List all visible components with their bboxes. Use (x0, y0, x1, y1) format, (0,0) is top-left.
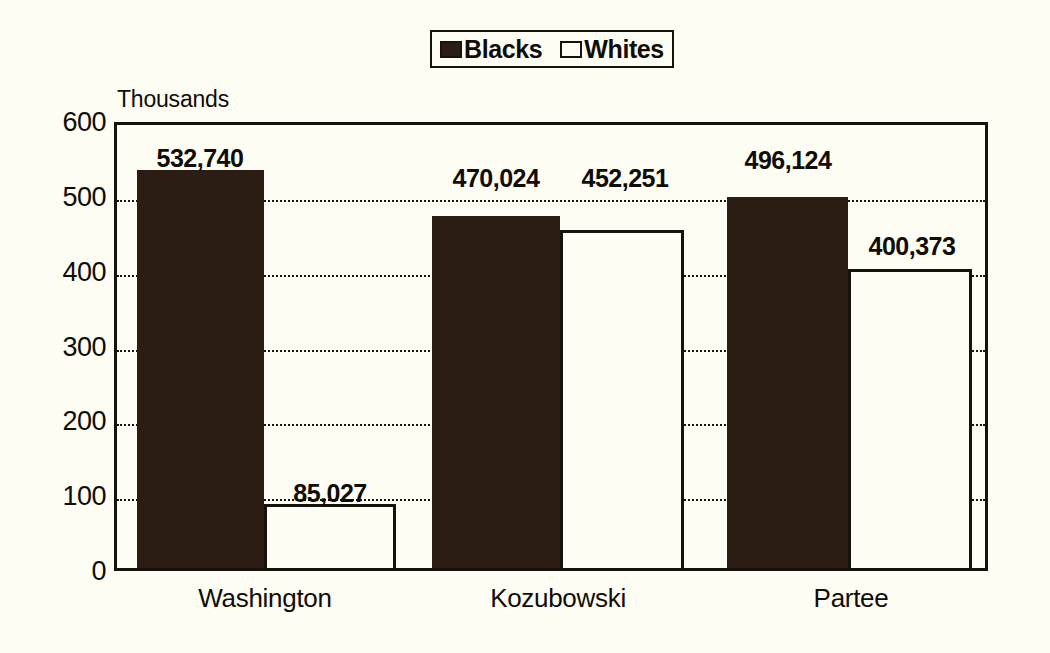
y-tick-label-600: 600 (14, 109, 106, 136)
bar-partee-blacks[interactable] (727, 197, 848, 568)
plot-area (114, 122, 988, 571)
value-label-washington-blacks: 532,740 (157, 146, 244, 171)
legend-entry-blacks: Blacks (440, 37, 542, 62)
value-label-kozubowski-blacks: 470,024 (453, 166, 540, 191)
y-tick-label-400: 400 (14, 258, 106, 285)
x-tick-label-kozubowski: Kozubowski (490, 585, 626, 611)
y-tick-label-200: 200 (14, 408, 106, 435)
y-tick-label-0: 0 (14, 558, 106, 585)
bar-kozubowski-whites[interactable] (560, 230, 684, 568)
y-axis: 600 500 400 300 200 100 0 (0, 122, 106, 571)
bar-washington-blacks[interactable] (137, 170, 264, 569)
legend-label-whites: Whites (584, 37, 664, 62)
legend-label-blacks: Blacks (464, 37, 542, 62)
y-tick-label-500: 500 (14, 183, 106, 210)
chart-legend: Blacks Whites (430, 30, 674, 68)
value-label-partee-whites: 400,373 (869, 234, 956, 259)
legend-swatch-whites-icon (560, 41, 582, 58)
y-tick-label-100: 100 (14, 483, 106, 510)
y-tick-label-300: 300 (14, 333, 106, 360)
chart-screenshot: Blacks Whites Thousands 600 500 400 300 … (0, 0, 1050, 653)
x-tick-label-washington: Washington (198, 585, 331, 611)
plot-inner (117, 125, 985, 568)
bar-partee-whites[interactable] (848, 269, 972, 569)
value-label-partee-blacks: 496,124 (745, 148, 832, 173)
legend-entry-whites: Whites (560, 37, 664, 62)
bar-kozubowski-blacks[interactable] (432, 216, 560, 568)
y-axis-units-caption: Thousands (117, 86, 229, 113)
value-label-washington-whites: 85,027 (293, 481, 366, 506)
value-label-kozubowski-whites: 452,251 (582, 166, 669, 191)
legend-swatch-blacks-icon (440, 41, 462, 58)
x-tick-label-partee: Partee (814, 585, 889, 611)
bar-washington-whites[interactable] (264, 504, 396, 568)
